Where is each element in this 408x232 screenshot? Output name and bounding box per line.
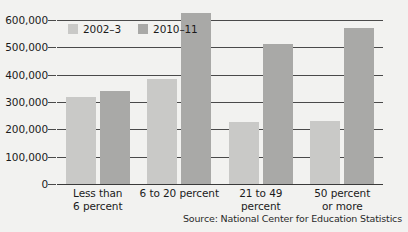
plot-area [57, 20, 383, 184]
y-axis-tick [48, 102, 56, 103]
x-axis-category-label: 50 percentor more [302, 187, 384, 212]
bar [344, 28, 374, 184]
bar [66, 97, 96, 184]
bar [100, 91, 130, 184]
x-axis-category-label: 21 to 49percent [220, 187, 302, 212]
bar [229, 122, 259, 184]
x-axis-label-line: or more [302, 200, 384, 213]
bar-chart: 0100,000200,000300,000400,000500,000600,… [0, 0, 408, 232]
y-axis-tick-label: 300,000 [0, 97, 48, 108]
legend-label: 2002–3 [83, 24, 121, 35]
bar-group [220, 20, 302, 184]
y-axis-tick-label: 0 [0, 179, 48, 190]
bar-group [139, 20, 221, 184]
bar-group [57, 20, 139, 184]
y-axis-tick [48, 47, 56, 48]
legend-swatch-icon [138, 24, 148, 34]
y-axis-tick-label: 100,000 [0, 151, 48, 162]
x-axis-category-label: Less than6 percent [57, 187, 139, 212]
y-axis-tick-label: 600,000 [0, 15, 48, 26]
x-axis-label-line: 21 to 49 [220, 187, 302, 200]
x-axis-label-line: Less than [57, 187, 139, 200]
x-axis-label-line: percent [220, 200, 302, 213]
y-axis-tick [48, 157, 56, 158]
bar [147, 79, 177, 184]
y-axis-tick [48, 20, 56, 21]
bar [263, 44, 293, 184]
x-axis-label-line: 50 percent [302, 187, 384, 200]
legend-swatch-icon [68, 24, 78, 34]
legend-entry: 2010–11 [138, 24, 198, 35]
y-axis-tick [48, 184, 56, 185]
bar-group [302, 20, 384, 184]
legend-entry: 2002–3 [68, 24, 121, 35]
x-axis-category-label: 6 to 20 percent [139, 187, 221, 200]
legend-label: 2010–11 [153, 24, 198, 35]
y-axis-tick [48, 75, 56, 76]
bar [310, 121, 340, 184]
source-note: Source: National Center for Education St… [183, 213, 402, 224]
y-axis-tick-label: 500,000 [0, 42, 48, 53]
x-axis-label-line: 6 to 20 percent [139, 187, 221, 200]
legend: 2002–32010–11 [68, 24, 198, 35]
x-axis-line [57, 184, 383, 185]
y-axis-tick [48, 129, 56, 130]
y-axis-tick-label: 400,000 [0, 69, 48, 80]
y-axis-tick-label: 200,000 [0, 124, 48, 135]
bar [181, 13, 211, 184]
x-axis-label-line: 6 percent [57, 200, 139, 213]
